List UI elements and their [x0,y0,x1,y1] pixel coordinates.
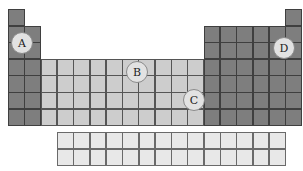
element-cell [41,75,58,92]
element-cell [41,92,58,109]
element-cell [24,59,41,76]
marker-b: B [126,61,148,83]
marker-a: A [11,32,33,54]
element-cell [187,109,204,126]
element-cell [24,92,41,109]
element-cell [204,75,221,92]
element-cell [236,42,253,59]
element-cell [122,149,139,166]
element-cell [171,132,188,149]
element-cell [106,132,123,149]
element-cell [253,75,270,92]
element-cell [73,59,90,76]
element-cell [122,92,139,109]
element-cell [171,75,188,92]
element-cell [253,132,270,149]
element-cell [73,132,90,149]
element-cell [285,59,302,76]
element-cell [155,59,172,76]
element-cell [90,132,107,149]
element-cell [90,92,107,109]
element-cell [236,59,253,76]
element-cell [269,75,286,92]
element-cell [24,109,41,126]
element-cell [285,75,302,92]
element-cell [41,59,58,76]
marker-label: A [18,37,26,50]
element-cell [122,109,139,126]
element-cell [139,132,156,149]
element-cell [269,149,286,166]
element-cell [253,92,270,109]
element-cell [155,149,172,166]
element-cell [253,26,270,43]
element-cell [155,92,172,109]
element-cell [204,149,221,166]
element-cell [220,59,237,76]
element-cell [73,92,90,109]
element-cell [171,149,188,166]
element-cell [204,132,221,149]
element-cell [220,92,237,109]
element-cell [187,149,204,166]
element-cell [204,26,221,43]
element-cell [253,109,270,126]
element-cell [204,92,221,109]
element-cell [57,149,74,166]
element-cell [122,132,139,149]
element-cell [220,42,237,59]
element-cell [73,75,90,92]
element-cell [236,75,253,92]
element-cell [57,132,74,149]
element-cell [57,75,74,92]
element-cell [253,59,270,76]
element-cell [8,9,25,26]
element-cell [8,92,25,109]
element-cell [73,149,90,166]
element-cell [106,109,123,126]
element-cell [171,59,188,76]
element-cell [253,42,270,59]
element-cell [57,109,74,126]
element-cell [90,149,107,166]
element-cell [269,132,286,149]
marker-c: C [183,89,205,111]
element-cell [90,59,107,76]
element-cell [220,75,237,92]
element-cell [106,75,123,92]
element-cell [220,109,237,126]
element-cell [155,75,172,92]
element-cell [220,149,237,166]
element-cell [236,109,253,126]
element-cell [187,132,204,149]
element-cell [155,132,172,149]
element-cell [236,132,253,149]
element-cell [57,92,74,109]
element-cell [220,26,237,43]
element-cell [285,109,302,126]
element-cell [24,75,41,92]
marker-d: D [273,37,295,59]
element-cell [73,109,90,126]
element-cell [269,109,286,126]
element-cell [204,59,221,76]
element-cell [269,92,286,109]
element-cell [8,109,25,126]
element-cell [204,109,221,126]
element-cell [285,92,302,109]
element-cell [139,149,156,166]
element-cell [106,149,123,166]
element-cell [57,59,74,76]
element-cell [204,42,221,59]
element-cell [171,109,188,126]
element-cell [138,92,155,109]
element-cell [106,59,123,76]
element-cell [8,75,25,92]
element-cell [155,109,172,126]
element-cell [90,75,107,92]
element-cell [138,109,155,126]
marker-label: C [190,94,198,107]
element-cell [236,26,253,43]
element-cell [41,109,58,126]
element-cell [220,132,237,149]
